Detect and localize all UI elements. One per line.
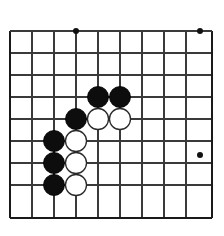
stone-black-3[interactable] [44, 131, 65, 152]
stone-black-2[interactable] [66, 109, 87, 130]
stone-black-0[interactable] [88, 87, 109, 108]
stone-black-1[interactable] [110, 87, 131, 108]
stone-white-9[interactable] [66, 153, 87, 174]
stone-black-5[interactable] [44, 175, 65, 196]
stone-white-8[interactable] [66, 131, 87, 152]
star-point-0 [73, 28, 79, 34]
stone-white-10[interactable] [66, 175, 87, 196]
stone-white-7[interactable] [110, 109, 131, 130]
stone-black-4[interactable] [44, 153, 65, 174]
stone-white-6[interactable] [88, 109, 109, 130]
star-point-1 [197, 28, 203, 34]
go-board-diagram [0, 0, 224, 236]
go-board-canvas[interactable] [0, 0, 224, 236]
star-point-2 [197, 152, 203, 158]
